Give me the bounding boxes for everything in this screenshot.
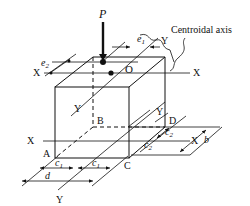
d-label: d bbox=[45, 170, 51, 181]
centroid-label: O bbox=[125, 63, 133, 75]
centroidal-axis-callout: Centroidal axis bbox=[171, 24, 232, 35]
x-label-top-right: X bbox=[193, 67, 201, 78]
y-label-top: Y bbox=[161, 35, 168, 46]
e1-label: e1 bbox=[137, 33, 145, 46]
e2-label: e2 bbox=[41, 57, 49, 70]
y-axis-mid-right bbox=[128, 110, 150, 127]
x-label-top-left: X bbox=[33, 67, 41, 78]
callout-leader-2 bbox=[170, 38, 185, 71]
b-label: b bbox=[204, 134, 209, 145]
y-axis-top bbox=[71, 38, 158, 116]
column-diagram: P O Centroidal axis X X Y Y Y X X Y A B … bbox=[0, 0, 250, 206]
x-label-base-right: X bbox=[191, 135, 199, 146]
centroid-point bbox=[108, 70, 113, 75]
corner-a: A bbox=[43, 148, 51, 159]
y-label-base: Y bbox=[56, 194, 63, 205]
y-label-mid-left: Y bbox=[74, 103, 81, 114]
y-label-mid-right: Y bbox=[156, 106, 163, 117]
x-label-base-left: X bbox=[27, 135, 35, 146]
corner-b: B bbox=[97, 115, 104, 126]
c2-upper-label: c2 bbox=[165, 126, 173, 139]
load-line-y bbox=[102, 42, 125, 62]
corner-d: D bbox=[169, 115, 176, 126]
corner-c: C bbox=[124, 160, 131, 171]
load-label: P bbox=[98, 7, 107, 21]
load-point bbox=[100, 59, 106, 65]
y-axis-base bbox=[58, 145, 112, 190]
